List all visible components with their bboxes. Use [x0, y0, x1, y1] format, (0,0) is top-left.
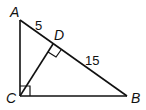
label-ad-length: 5: [35, 18, 42, 33]
label-b: B: [131, 90, 140, 106]
altitude-cd: [20, 44, 53, 96]
right-angle-mark-d: [48, 50, 61, 57]
label-db-length: 15: [85, 53, 99, 68]
label-d: D: [54, 27, 64, 43]
label-c: C: [6, 90, 17, 106]
label-a: A: [9, 4, 19, 20]
triangle-diagram: A D C B 5 15: [0, 0, 146, 110]
